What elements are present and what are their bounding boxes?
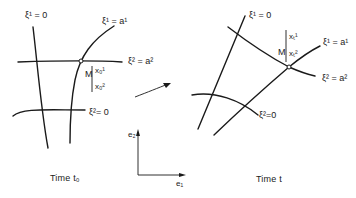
- basis-axes: [136, 129, 186, 177]
- left-xi2-zero-curve: [13, 110, 85, 116]
- left-xi2-a2-curve: [18, 61, 122, 62]
- left-xi1-zero-label: ξ¹ = 0: [25, 11, 47, 20]
- right-coord1-label: xₜ¹: [289, 33, 298, 41]
- left-point-m-marker: [79, 59, 83, 63]
- right-coord2-label: xₜ²: [289, 50, 298, 58]
- left-xi1-zero-curve: [33, 27, 48, 148]
- right-xi1-a1-curve: [214, 46, 320, 135]
- transform-arrow-icon: [135, 83, 171, 97]
- right-xi1-a1-label: ξ¹ = a¹: [323, 38, 348, 47]
- e1-arrowhead-icon: [179, 173, 186, 177]
- deformation-diagram: [0, 0, 356, 198]
- right-xi1-zero-label: ξ¹ = 0: [249, 11, 271, 20]
- left-xi2-a2-label: ξ² = a²: [128, 57, 153, 66]
- left-point-m-label: M: [85, 70, 93, 79]
- right-xi2-a2-curve: [228, 27, 315, 76]
- right-point-m-label: M: [278, 48, 286, 57]
- left-panel-curves: [13, 26, 122, 148]
- right-xi2-zero-curve: [192, 94, 258, 115]
- e2-label: e₂: [128, 131, 136, 139]
- left-coord2-label: x₀²: [95, 83, 105, 91]
- e2-arrowhead-icon: [136, 129, 140, 136]
- right-panel-caption: Time t: [256, 175, 282, 184]
- left-panel-caption: Time t₀: [50, 174, 80, 183]
- right-xi2-a2-label: ξ² = a²: [322, 74, 347, 83]
- left-xi1-a1-label: ξ¹ = a¹: [102, 17, 127, 26]
- left-xi2-zero-label: ξ²= 0: [89, 108, 109, 117]
- e1-label: e₁: [176, 180, 183, 188]
- right-xi2-zero-label: ξ²=0: [259, 111, 276, 120]
- left-coord1-label: x₀¹: [95, 67, 105, 75]
- right-point-m-marker: [287, 65, 291, 69]
- right-panel-curves: [192, 16, 320, 135]
